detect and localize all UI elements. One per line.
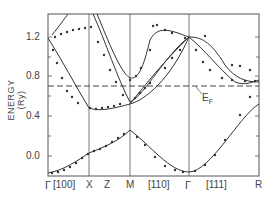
x-label-100: [100]: [53, 179, 75, 190]
fermi-label: EF: [202, 92, 213, 105]
y-tick-0.8: 0.8: [26, 70, 40, 81]
x-label-gamma-2: Γ: [185, 179, 191, 191]
x-label-x: X: [86, 179, 93, 190]
band-structure-plot: [0, 0, 273, 199]
plot-frame: [48, 14, 259, 176]
y-axis-title: ENERGY (Ry): [6, 70, 26, 130]
x-label-r: R: [255, 179, 262, 190]
y-tick-1.2: 1.2: [26, 31, 40, 42]
x-label-m: M: [126, 179, 134, 190]
y-tick-0.4: 0.4: [26, 110, 40, 121]
x-label-z: Z: [104, 179, 110, 190]
x-label-110: [110]: [148, 179, 170, 190]
y-tick-0.0: 0.0: [26, 150, 40, 161]
x-label-111: [111]: [206, 179, 227, 190]
x-label-gamma: Γ: [45, 179, 51, 191]
